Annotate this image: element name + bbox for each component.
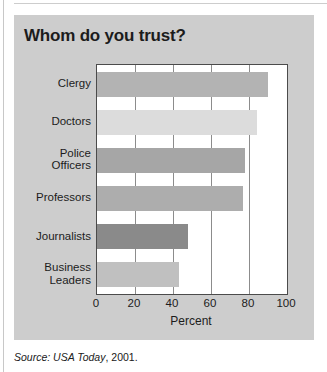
source-publication: USA Today [53,351,105,363]
category-label-line: Journalists [17,230,91,243]
category-label: Doctors [17,115,91,128]
category-label: PoliceOfficers [17,147,91,172]
gridline-20 [135,65,136,294]
x-axis-tick-labels: 020406080100 [96,297,286,313]
category-label-line: Police [17,147,91,160]
x-tick-label: 80 [242,297,255,309]
x-tick-label: 0 [93,297,99,309]
x-tick-label: 20 [128,297,141,309]
category-label: Clergy [17,77,91,90]
bar [97,262,179,287]
bar [97,186,243,211]
category-label-line: Business [17,261,91,274]
x-tick-label: 40 [166,297,179,309]
source-caption: Source: USA Today, 2001. [14,351,138,363]
x-tick-label: 60 [204,297,217,309]
bar [97,110,257,135]
gridline-80 [249,65,250,294]
page-left-rule [3,0,4,372]
plot-area [96,64,288,295]
category-label-line: Doctors [17,115,91,128]
bar [97,224,188,249]
category-label-line: Officers [17,159,91,172]
gridline-40 [173,65,174,294]
chart-title: Whom do you trust? [24,26,186,46]
bar [97,72,268,97]
source-year: , 2001. [105,351,137,363]
category-label-line: Leaders [17,274,91,287]
gridline-60 [211,65,212,294]
figure-panel: Whom do you trust? ClergyDoctorsPoliceOf… [14,15,314,340]
category-label-line: Professors [17,191,91,204]
source-prefix: Source: [14,351,50,363]
category-label-line: Clergy [17,77,91,90]
category-axis-labels: ClergyDoctorsPoliceOfficersProfessorsJou… [14,64,91,293]
x-axis-title: Percent [96,314,286,328]
x-tick-label: 100 [276,297,295,309]
category-label: BusinessLeaders [17,261,91,286]
bar [97,148,245,173]
page-top-rule [14,3,327,4]
category-label: Professors [17,191,91,204]
category-label: Journalists [17,230,91,243]
